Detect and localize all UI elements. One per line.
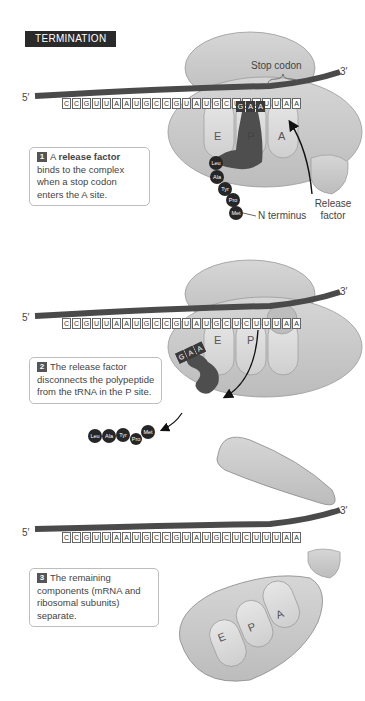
- nucleotide: U: [232, 318, 241, 329]
- nucleotide: C: [242, 532, 251, 543]
- amino-acid: Leu: [88, 432, 102, 440]
- nucleotide: U: [252, 318, 261, 329]
- nucleotide: G: [212, 532, 221, 543]
- nucleotide: U: [262, 318, 271, 329]
- caption-text: The remaining components (mRNA and ribos…: [37, 572, 141, 621]
- nucleotide: U: [202, 318, 211, 329]
- nucleotide: U: [272, 532, 281, 543]
- amino-acid: Leu: [209, 159, 223, 167]
- nucleotide: U: [102, 318, 111, 329]
- nucleotide: C: [152, 532, 161, 543]
- five-prime-label: 5′: [22, 92, 29, 103]
- nucleotide: A: [122, 532, 131, 543]
- nucleotide: U: [182, 98, 191, 109]
- mrna-sequence-panel-3: CCGUUAAUGCCGUAUGCUCUUUAA: [62, 526, 302, 544]
- nucleotide: U: [92, 98, 101, 109]
- nucleotide: C: [72, 98, 81, 109]
- nucleotide: A: [192, 532, 201, 543]
- step-number: 2: [37, 362, 47, 372]
- nucleotide: U: [202, 98, 211, 109]
- mrna-sequence-panel-2: CCGUUAAUGCCGUAUGCUCUUUAA: [62, 312, 302, 330]
- step-3-caption: 3The remaining components (mRNA and ribo…: [29, 568, 159, 627]
- large-subunit-separated: [217, 437, 335, 505]
- n-terminus-label: N terminus: [258, 210, 306, 221]
- three-prime-label: 3′: [340, 66, 347, 77]
- release-factor-shape: [311, 155, 348, 194]
- caption-text: binds to the complex when a stop codon e…: [37, 164, 124, 200]
- nucleotide: U: [272, 318, 281, 329]
- three-prime-label: 3′: [340, 286, 347, 297]
- nucleotide: C: [72, 318, 81, 329]
- three-prime-label: 3′: [340, 505, 347, 516]
- nucleotide: A: [192, 98, 201, 109]
- nucleotide: G: [172, 98, 181, 109]
- nucleotide: C: [162, 98, 171, 109]
- amino-acid: Pro: [226, 196, 240, 204]
- nucleotide: U: [182, 318, 191, 329]
- amino-acid: Met: [141, 428, 155, 436]
- nucleotide: U: [262, 532, 271, 543]
- nucleotide: U: [92, 318, 101, 329]
- site-e-label: E: [214, 334, 221, 346]
- nucleotide: A: [292, 318, 301, 329]
- nucleotide: G: [82, 318, 91, 329]
- nucleotide: C: [62, 532, 71, 543]
- nucleotide: C: [162, 318, 171, 329]
- nucleotide: C: [222, 532, 231, 543]
- nucleotide: C: [222, 318, 231, 329]
- nucleotide: A: [112, 98, 121, 109]
- nucleotide: C: [72, 532, 81, 543]
- release-factor-label: Release factor: [313, 198, 353, 222]
- anticodon-panel-1: G A A: [236, 101, 266, 112]
- nucleotide: G: [172, 532, 181, 543]
- caption-text: The release factor disconnects the polyp…: [37, 361, 154, 397]
- nucleotide: U: [132, 532, 141, 543]
- step-number: 3: [37, 573, 47, 583]
- nucleotide: A: [282, 318, 291, 329]
- step-2-caption: 2The release factor disconnects the poly…: [29, 357, 162, 404]
- site-p-label: P: [247, 334, 254, 346]
- five-prime-label: 5′: [22, 527, 29, 538]
- amino-acid: Met: [229, 209, 243, 217]
- five-prime-label: 5′: [22, 312, 29, 323]
- nucleotide: C: [152, 318, 161, 329]
- nucleotide: A: [122, 318, 131, 329]
- step-1-caption: 1A release factor binds to the complex w…: [29, 147, 150, 206]
- nucleotide: A: [122, 98, 131, 109]
- anticodon-base: A: [246, 101, 255, 112]
- nucleotide: U: [132, 98, 141, 109]
- nucleotide: A: [112, 318, 121, 329]
- nucleotide: A: [292, 98, 301, 109]
- nucleotide: C: [62, 98, 71, 109]
- nucleotide: G: [212, 98, 221, 109]
- site-a-label: A: [278, 130, 285, 142]
- nucleotide: G: [142, 98, 151, 109]
- caption-bold-term: release factor: [58, 151, 120, 162]
- amino-acid: Tyr: [116, 431, 130, 439]
- nucleotide: U: [252, 532, 261, 543]
- amino-acid: Ala: [102, 432, 116, 440]
- nucleotide: U: [102, 532, 111, 543]
- nucleotide: A: [292, 532, 301, 543]
- nucleotide: A: [282, 532, 291, 543]
- nucleotide: A: [192, 318, 201, 329]
- nucleotide: G: [172, 318, 181, 329]
- nucleotide: U: [182, 532, 191, 543]
- nucleotide: G: [142, 318, 151, 329]
- nucleotide: G: [142, 532, 151, 543]
- nucleotide: G: [82, 98, 91, 109]
- anticodon-base: A: [256, 101, 265, 112]
- step-number: 1: [37, 152, 47, 162]
- anticodon-base: G: [236, 101, 245, 112]
- amino-acid: Tyr: [218, 185, 232, 193]
- nucleotide: C: [152, 98, 161, 109]
- nucleotide: U: [232, 532, 241, 543]
- stop-codon-label: Stop codon: [251, 60, 302, 71]
- nucleotide: A: [282, 98, 291, 109]
- nucleotide: U: [272, 98, 281, 109]
- amino-acid: Ala: [210, 173, 224, 181]
- nucleotide: G: [82, 532, 91, 543]
- release-factor-free: [308, 549, 340, 578]
- site-e-label: E: [214, 130, 221, 142]
- site-p-label: P: [247, 130, 254, 142]
